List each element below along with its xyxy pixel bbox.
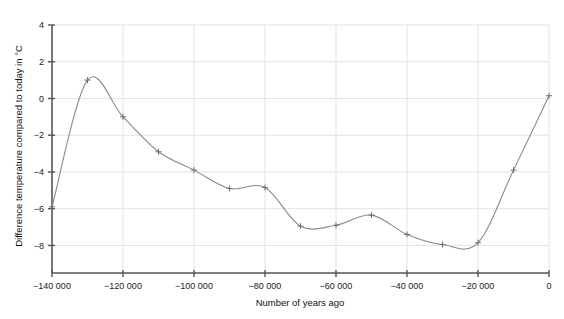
data-point-marker xyxy=(369,212,375,218)
x-tick-label: −40 000 xyxy=(391,281,424,291)
y-tick-label: −8 xyxy=(34,241,44,251)
x-tick-label: −140 000 xyxy=(33,281,71,291)
data-point-marker xyxy=(298,223,304,229)
x-axis-title: Number of years ago xyxy=(256,297,345,308)
x-tick-label: −100 000 xyxy=(175,281,213,291)
x-tick-label: −60 000 xyxy=(320,281,353,291)
x-tick-label: 0 xyxy=(546,281,551,291)
axis-lines xyxy=(52,25,549,273)
y-tick-label: −2 xyxy=(34,130,44,140)
y-axis-title: Difference temperature compared to today… xyxy=(13,45,24,247)
y-tick-label: 4 xyxy=(39,20,44,30)
y-tick-labels: 420−2−4−6−8 xyxy=(34,20,44,250)
x-tick-labels: −140 000−120 000−100 000−80 000−60 000−4… xyxy=(33,281,551,291)
data-point-marker xyxy=(440,242,446,248)
y-tick-label: 0 xyxy=(39,94,44,104)
data-point-marker xyxy=(262,185,268,191)
data-point-marker xyxy=(404,231,410,237)
data-point-marker xyxy=(546,93,552,99)
y-tick-label: −6 xyxy=(34,204,44,214)
x-tick-label: −80 000 xyxy=(249,281,282,291)
y-tick-label: −4 xyxy=(34,167,44,177)
x-tick-label: −20 000 xyxy=(462,281,495,291)
data-point-markers xyxy=(49,77,552,247)
y-tick-label: 2 xyxy=(39,57,44,67)
data-point-marker xyxy=(333,222,339,228)
chart-container: −140 000−120 000−100 000−80 000−60 000−4… xyxy=(0,0,564,319)
grid-lines xyxy=(52,25,549,273)
temperature-line-chart: −140 000−120 000−100 000−80 000−60 000−4… xyxy=(0,0,564,319)
data-point-marker xyxy=(227,185,233,191)
x-tick-label: −120 000 xyxy=(104,281,142,291)
